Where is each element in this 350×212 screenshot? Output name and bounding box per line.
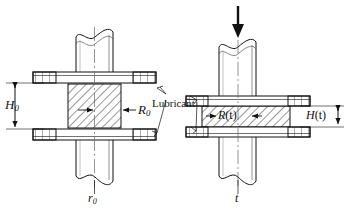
label-rt-cap: R(t) [218, 109, 237, 121]
label-h0: H0 [5, 98, 19, 113]
right-figure-time-t-state [186, 6, 344, 194]
figure-canvas: H0 R0 Lubricant r0 R(t) H(t) t [0, 0, 350, 212]
top-plate-right [186, 96, 310, 106]
label-r0-low: r0 [88, 192, 97, 206]
label-t-low: t [235, 192, 238, 204]
upper-cylinder-right [219, 39, 256, 97]
label-ht: H(t) [306, 109, 326, 121]
lubricant-film-right [202, 106, 290, 127]
bottom-plate-right [186, 127, 310, 137]
left-figure-initial-state [6, 27, 156, 194]
label-r0-cap: R0 [138, 103, 150, 118]
label-lubricant: Lubricant [152, 98, 195, 109]
downward-force-arrow[interactable] [232, 6, 244, 38]
